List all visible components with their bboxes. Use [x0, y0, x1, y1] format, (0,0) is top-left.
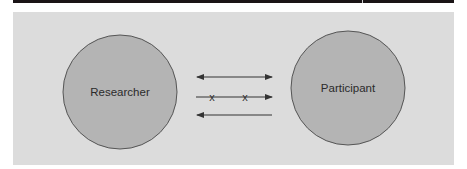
block-mark-2: x	[242, 91, 248, 103]
participant-node: Participant	[291, 31, 405, 145]
researcher-label: Researcher	[90, 86, 150, 98]
diagram-canvas: Researcher Participant x x	[0, 0, 467, 169]
blocked-arrow-researcher-to-participant: x x	[196, 91, 272, 103]
participant-label: Participant	[321, 82, 376, 94]
block-mark-1: x	[209, 91, 215, 103]
researcher-node: Researcher	[63, 35, 177, 149]
